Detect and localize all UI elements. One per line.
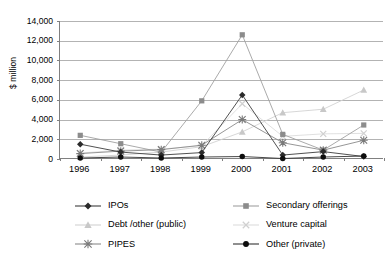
legend-label: Debt /other (public): [108, 220, 186, 229]
y-tick-label: 2,000: [7, 135, 53, 144]
legend-item-venture-capital[interactable]: Venture capital: [232, 215, 380, 234]
legend-item-debt-other-public[interactable]: Debt /other (public): [74, 215, 232, 234]
chart-legend: IPOsSecondary offeringsDebt /other (publ…: [74, 196, 380, 254]
plot-area: [59, 21, 383, 159]
x-tick-label: 1999: [178, 165, 224, 174]
legend-label: PIPES: [108, 240, 135, 249]
series-secondary-offerings: [78, 32, 367, 155]
y-tick-label: 0: [7, 155, 53, 164]
y-tick-label: 10,000: [7, 56, 53, 65]
triangle-marker-icon: [74, 219, 102, 231]
x-tick-label: 2002: [299, 165, 345, 174]
legend-label: Other (private): [266, 240, 325, 249]
series-plot: [60, 21, 384, 159]
legend-item-secondary-offerings[interactable]: Secondary offerings: [232, 196, 380, 215]
legend-label: IPOs: [108, 201, 128, 210]
y-tick-label: 14,000: [7, 17, 53, 26]
legend-item-other-private[interactable]: Other (private): [232, 235, 380, 254]
x-tick-mark: [384, 158, 385, 161]
x-marker-icon: [232, 219, 260, 231]
legend-label: Secondary offerings: [266, 201, 348, 210]
square-marker-icon: [232, 200, 260, 212]
circle-marker-icon: [232, 238, 260, 250]
series-ipos: [77, 92, 367, 160]
y-tick-label: 4,000: [7, 115, 53, 124]
x-tick-label: 1997: [97, 165, 143, 174]
x-tick-label: 2000: [218, 165, 264, 174]
diamond-marker-icon: [74, 200, 102, 212]
x-tick-label: 1998: [137, 165, 183, 174]
y-tick-label: 12,000: [7, 36, 53, 45]
asterisk-marker-icon: [74, 238, 102, 250]
y-tick-label: 6,000: [7, 95, 53, 104]
x-tick-label: 1996: [56, 165, 102, 174]
legend-item-ipos[interactable]: IPOs: [74, 196, 232, 215]
x-tick-label: 2001: [259, 165, 305, 174]
legend-item-pipes[interactable]: PIPES: [74, 235, 232, 254]
legend-label: Venture capital: [266, 220, 327, 229]
y-tick-label: 8,000: [7, 76, 53, 85]
x-tick-label: 2003: [340, 165, 386, 174]
line-chart: $ million 02,0004,0006,0008,00010,00012,…: [0, 0, 392, 261]
